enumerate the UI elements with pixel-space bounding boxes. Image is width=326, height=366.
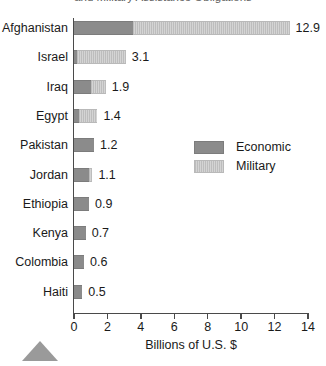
chart-legend: EconomicMilitary <box>194 139 304 177</box>
bar-value-label: 1.1 <box>98 167 115 183</box>
x-axis-tick <box>140 314 141 319</box>
bar-row: Israel3.1 <box>0 49 326 65</box>
bar-segment-military <box>77 50 125 64</box>
stacked-bar <box>74 109 97 123</box>
category-label: Ethiopia <box>23 196 68 212</box>
bar-row: Colombia0.6 <box>0 254 326 270</box>
bar-row: Haiti0.5 <box>0 284 326 300</box>
bar-segment-military <box>91 80 106 94</box>
x-axis-tick <box>207 314 208 319</box>
stacked-bar <box>74 255 84 269</box>
bar-value-label: 1.4 <box>103 108 120 124</box>
legend-swatch-economic <box>194 141 224 154</box>
bar-segment-military <box>79 109 97 123</box>
bar-segment-economic <box>74 197 89 211</box>
bar-row: Kenya0.7 <box>0 225 326 241</box>
legend-label: Military <box>236 159 276 173</box>
stacked-bar <box>74 285 82 299</box>
stacked-bar <box>74 226 86 240</box>
category-label: Pakistan <box>20 137 68 153</box>
chart-plot-area: Afghanistan12.9Israel3.1Iraq1.9Egypt1.4P… <box>0 0 326 366</box>
legend-label: Economic <box>236 140 291 154</box>
bar-segment-economic <box>74 168 89 182</box>
bar-value-label: 0.6 <box>90 254 107 270</box>
stacked-bar <box>74 168 92 182</box>
legend-item: Economic <box>194 139 304 155</box>
bar-value-label: 12.9 <box>296 20 320 36</box>
x-axis-tick <box>240 314 241 319</box>
stacked-bar <box>74 197 89 211</box>
x-axis-tick <box>107 314 108 319</box>
bar-segment-economic <box>74 21 133 35</box>
stacked-bar <box>74 80 106 94</box>
bar-segment-economic <box>74 226 86 240</box>
bar-value-label: 1.2 <box>100 137 117 153</box>
bar-value-label: 0.9 <box>95 196 112 212</box>
x-axis-tick-label: 14 <box>288 320 326 334</box>
bar-value-label: 0.7 <box>92 225 109 241</box>
triangle-marker-icon <box>22 341 58 361</box>
x-axis-title: Billions of U.S. $ <box>73 338 309 352</box>
x-axis-tick <box>174 314 175 319</box>
bar-segment-economic <box>74 80 91 94</box>
stacked-bar <box>74 21 290 35</box>
bar-value-label: 0.5 <box>88 284 105 300</box>
bar-value-label: 1.9 <box>112 79 129 95</box>
bar-row: Ethiopia0.9 <box>0 196 326 212</box>
category-label: Iraq <box>46 79 68 95</box>
stacked-bar <box>74 50 126 64</box>
category-label: Colombia <box>15 254 68 270</box>
x-axis-tick <box>274 314 275 319</box>
category-label: Jordan <box>30 167 68 183</box>
bar-row: Iraq1.9 <box>0 79 326 95</box>
bar-segment-economic <box>74 255 84 269</box>
legend-item: Military <box>194 158 304 174</box>
bar-row: Egypt1.4 <box>0 108 326 124</box>
category-label: Egypt <box>36 108 68 124</box>
bar-segment-military <box>133 21 290 35</box>
stacked-bar <box>74 138 94 152</box>
x-axis-tick <box>73 314 74 319</box>
x-axis-tick <box>307 314 308 319</box>
legend-swatch-military <box>194 160 224 173</box>
bar-segment-military <box>89 168 92 182</box>
category-label: Afghanistan <box>2 20 68 36</box>
bar-value-label: 3.1 <box>132 49 149 65</box>
category-label: Kenya <box>33 225 68 241</box>
bar-row: Afghanistan12.9 <box>0 20 326 36</box>
bar-segment-economic <box>74 285 82 299</box>
category-label: Israel <box>37 49 68 65</box>
bar-segment-economic <box>74 138 94 152</box>
category-label: Haiti <box>43 284 68 300</box>
